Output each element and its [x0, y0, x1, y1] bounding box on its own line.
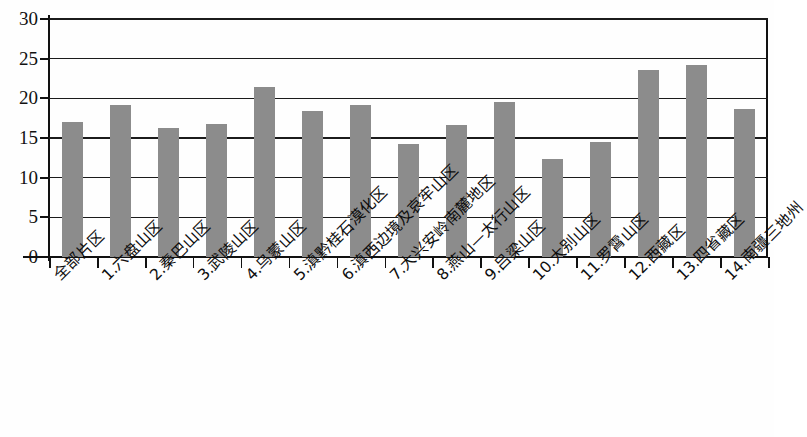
y-axis-tick-label: 30 — [2, 9, 38, 28]
bar — [446, 125, 467, 257]
bar — [302, 111, 323, 257]
y-axis-tick-label-wrap: 25 — [0, 49, 38, 69]
y-axis-tick-label-wrap: 30 — [0, 9, 38, 29]
x-axis-tick — [576, 257, 578, 268]
x-axis-tick — [528, 257, 530, 268]
x-axis-tick — [97, 257, 99, 268]
y-axis-tick-label: 25 — [2, 49, 38, 68]
x-axis-tick — [720, 257, 722, 268]
bar — [734, 109, 755, 257]
x-axis-tick — [145, 257, 147, 268]
y-axis-tick-label: 20 — [2, 88, 38, 107]
y-axis-tick-label-wrap: 10 — [0, 168, 38, 188]
x-axis-tick — [768, 257, 770, 268]
bar — [62, 122, 83, 257]
bar — [494, 102, 515, 257]
bar — [110, 105, 131, 257]
bar — [686, 65, 707, 257]
y-axis-tick-label: 10 — [2, 168, 38, 187]
x-axis-tick — [385, 257, 387, 268]
bar — [158, 128, 179, 257]
bar — [350, 105, 371, 257]
x-axis-tick — [432, 257, 434, 268]
gridline — [49, 137, 768, 139]
bar — [206, 124, 227, 257]
x-axis-tick — [241, 257, 243, 268]
y-axis-tick-label-wrap: 20 — [0, 88, 38, 108]
x-axis-tick — [289, 257, 291, 268]
x-axis-tick — [624, 257, 626, 268]
y-axis-tick-label-wrap: 15 — [0, 128, 38, 148]
x-axis-tick — [193, 257, 195, 268]
gridline — [49, 18, 768, 20]
gridline — [49, 58, 768, 60]
gridline — [49, 98, 768, 100]
y-axis-tick-label: 15 — [2, 128, 38, 147]
y-axis-tick-label-wrap: 5 — [0, 207, 38, 227]
x-axis-tick — [49, 257, 51, 268]
x-axis-tick — [672, 257, 674, 268]
x-axis-tick — [480, 257, 482, 268]
x-axis-tick — [337, 257, 339, 268]
y-axis-tick-label: 5 — [2, 207, 38, 226]
